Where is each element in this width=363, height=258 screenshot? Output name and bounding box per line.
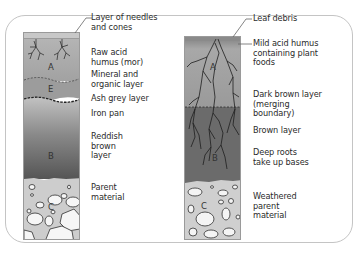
label-dark-brown: Dark brown layer (merging boundary) xyxy=(253,90,322,119)
horizon-c-left: C xyxy=(48,202,54,212)
label-reddish-brown: Reddish brown layer xyxy=(91,132,123,161)
label-raw-acid-humus: Raw acid humus (mor) xyxy=(91,48,143,67)
label-brown-layer: Brown layer xyxy=(253,126,301,136)
label-needles-cones: Layer of needles and cones xyxy=(91,13,157,32)
label-parent-material: Parent material xyxy=(91,183,124,202)
horizon-e-left: E xyxy=(48,84,53,94)
left-soil-profile: A E B C xyxy=(23,32,80,240)
horizon-c-right: C xyxy=(201,201,207,211)
label-ash-grey: Ash grey layer xyxy=(91,94,149,104)
horizon-a-right: A xyxy=(210,62,216,72)
label-mineral-organic: Mineral and organic layer xyxy=(91,70,143,89)
left-profile-graphic: A E B C xyxy=(24,33,80,240)
label-deep-roots: Deep roots take up bases xyxy=(253,148,309,167)
label-weathered-parent: Weathered parent material xyxy=(253,192,297,221)
horizon-a-left: A xyxy=(48,62,54,72)
horizon-b-left: B xyxy=(48,151,54,161)
right-soil-profile: A B C xyxy=(184,36,241,240)
right-profile-graphic: A B C xyxy=(185,37,241,240)
horizon-b-right: B xyxy=(212,153,218,163)
label-mild-acid-humus: Mild acid humus containing plant foods xyxy=(253,39,318,68)
label-leaf-debris: Leaf debris xyxy=(253,14,297,24)
label-iron-pan: Iron pan xyxy=(91,109,124,119)
